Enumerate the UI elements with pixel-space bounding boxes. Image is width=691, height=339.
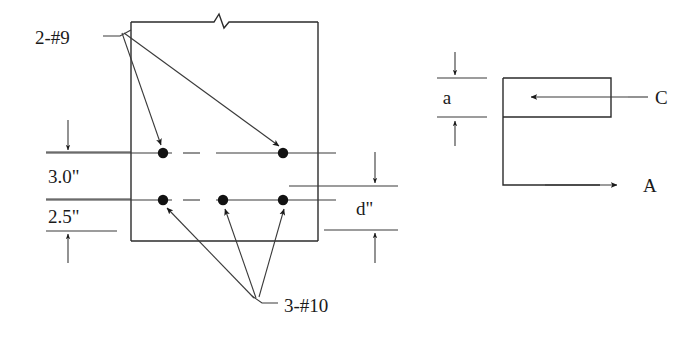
bar-dot-bottom-1 bbox=[158, 195, 168, 205]
label-stress-block-depth: a bbox=[443, 87, 452, 108]
bar-dot-bottom-2 bbox=[218, 195, 228, 205]
top-bars-leader-lines bbox=[103, 30, 279, 146]
stress-block-group: a C A bbox=[437, 52, 668, 196]
section-top-edge-with-break bbox=[131, 14, 318, 28]
label-dimension-spacing: 2.5" bbox=[48, 206, 80, 227]
top-bars-leader-to-bar-2 bbox=[124, 33, 279, 146]
label-bottom-bars: 3-#10 bbox=[284, 295, 328, 316]
bar-dot-top-2 bbox=[278, 148, 288, 158]
label-tension-force: A bbox=[643, 175, 657, 196]
beam-section-group: 2-#9 3-#10 3.0" 2.5" d" bbox=[35, 14, 398, 316]
bottom-bars-leader-to-bar-3 bbox=[259, 209, 284, 297]
bar-dot-bottom-3 bbox=[278, 195, 288, 205]
section-profile-line bbox=[503, 78, 600, 185]
label-top-bars: 2-#9 bbox=[35, 27, 70, 48]
bottom-bars-leader-lines bbox=[167, 208, 284, 303]
top-bars-leader-to-bar-1 bbox=[122, 33, 161, 145]
bar-dot-top-1 bbox=[158, 148, 168, 158]
engineering-drawing-canvas: 2-#9 3-#10 3.0" 2.5" d" bbox=[0, 0, 691, 339]
diagram-svg: 2-#9 3-#10 3.0" 2.5" d" bbox=[0, 0, 691, 339]
label-compression-force: C bbox=[655, 87, 668, 108]
dimension-d-inch bbox=[289, 152, 398, 263]
bottom-bars-leader-to-bar-1 bbox=[167, 208, 254, 298]
label-dimension-cover: 3.0" bbox=[48, 166, 80, 187]
label-dimension-effective-depth: d" bbox=[356, 198, 373, 219]
dimension-3-0-inch bbox=[46, 120, 131, 152]
